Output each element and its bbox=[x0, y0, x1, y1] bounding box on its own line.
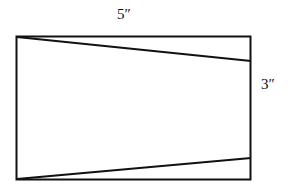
bottom-diagonal-line bbox=[17, 158, 251, 179]
rectangle-diagram bbox=[0, 0, 293, 196]
top-diagonal-line bbox=[17, 37, 251, 61]
width-label: 5″ bbox=[117, 6, 131, 23]
height-label: 3″ bbox=[261, 76, 275, 93]
